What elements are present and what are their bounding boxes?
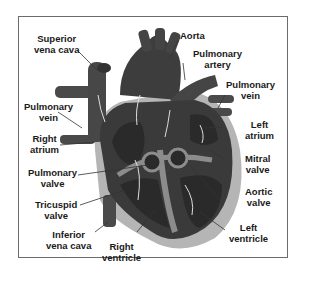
label-aorta: Aorta (180, 30, 205, 41)
label-mitral-valve: Mitralvalve (245, 153, 270, 175)
aortic-valve-shape (169, 149, 187, 167)
inferior-vena-cava-vessel (103, 195, 116, 227)
label-pulmonary-vein-right: Pulmonaryvein (226, 79, 275, 101)
label-left-ventricle: Leftventricle (229, 222, 268, 244)
label-pulmonary-vein-left: Pulmonaryvein (24, 101, 73, 123)
label-aortic-valve: Aorticvalve (245, 186, 272, 208)
label-right-atrium: Rightatrium (30, 133, 59, 155)
label-pulmonary-valve: Pulmonaryvalve (28, 167, 77, 189)
label-pulmonary-artery: Pulmonaryartery (193, 48, 242, 70)
label-inferior-vena-cava: Inferiorvena cava (46, 229, 91, 251)
label-left-atrium: Leftatrium (245, 119, 274, 141)
label-tricuspid-valve: Tricuspidvalve (35, 199, 77, 221)
label-superior-vena-cava: Superiorvena cava (34, 33, 79, 55)
pulmonary-valve-shape (143, 153, 161, 171)
label-right-ventricle: Rightventricle (102, 241, 141, 263)
